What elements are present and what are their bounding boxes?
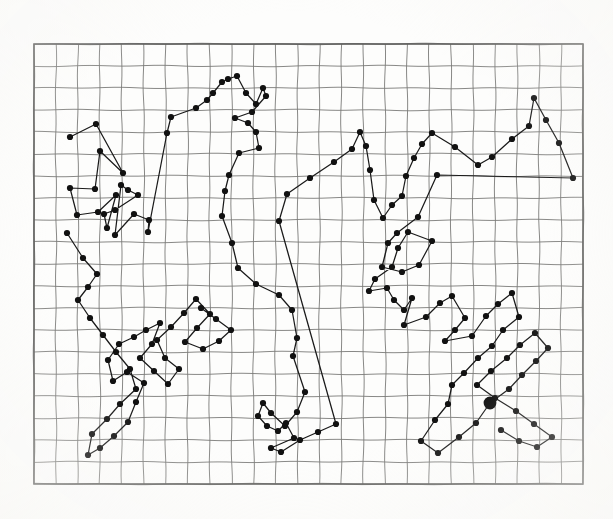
figure-root [0, 0, 613, 519]
tour-path-scatter-chart [0, 0, 613, 519]
